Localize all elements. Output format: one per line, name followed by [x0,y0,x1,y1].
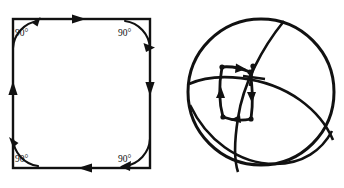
angle-label-bottom-left: 90° [15,154,29,164]
angle-label-bottom-right: 90° [118,154,132,164]
arrow-top-right-direction [72,14,86,23]
great-circle-arc-lower [190,105,332,164]
square-outline [13,19,150,168]
tangent-vector-origin-dot [250,63,255,68]
loop-arrow-right-direction [247,92,256,103]
sphere-outline [188,19,334,165]
great-circle-arc-upper [189,77,333,140]
figure-canvas: 90° 90° 90° 90° [0,0,344,188]
square-panel: 90° 90° 90° 90° [8,14,155,172]
arrow-right-down-direction [145,82,154,96]
loop-vertex-top-left [219,64,224,69]
loop-vertex-bottom-left [220,114,225,119]
loop-arrow-top-direction [235,64,246,74]
loop-vertex-bottom-right [248,116,253,121]
geometry-figure: 90° 90° 90° 90° [0,0,344,188]
loop-arrow-left-direction [216,87,225,98]
great-circle-arc-meridian [235,21,284,172]
angle-label-top-left: 90° [15,28,29,38]
sphere-panel [188,19,334,172]
angle-label-top-right: 90° [118,28,132,38]
arrow-bottom-left-direction [78,163,92,172]
arrow-left-up-direction [8,81,17,95]
